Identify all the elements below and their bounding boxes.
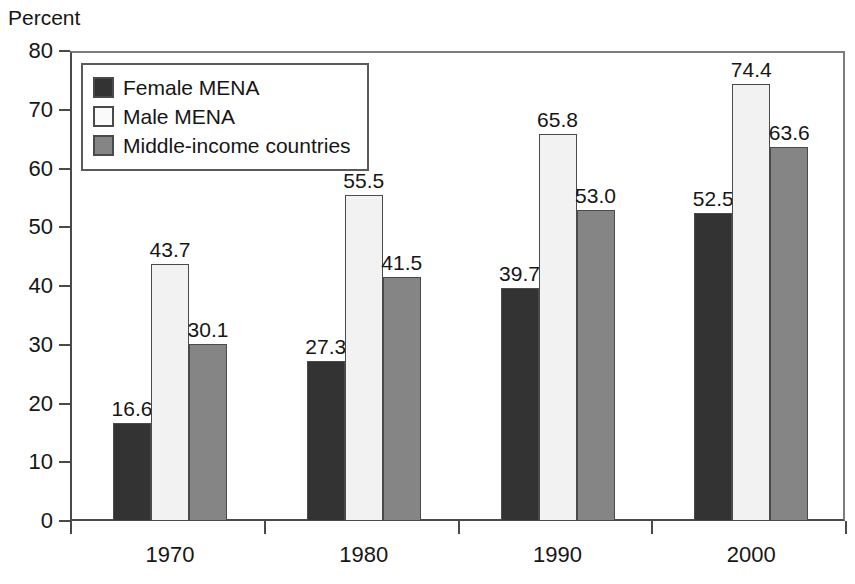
bar-1990-series-1 bbox=[539, 134, 577, 521]
bar-chart-figure: Percent 01020304050607080 19701980199020… bbox=[0, 0, 855, 584]
bar-1980-series-1 bbox=[345, 195, 383, 521]
legend-item-1[interactable]: Male MENA bbox=[93, 102, 357, 131]
legend-label: Female MENA bbox=[123, 76, 260, 100]
y-tick-mark bbox=[59, 461, 70, 463]
bar-1980-series-0 bbox=[307, 361, 345, 521]
bar-1970-series-1 bbox=[151, 264, 189, 521]
bar-value-label-1980-series-2: 41.5 bbox=[381, 250, 422, 275]
bar-value-label-1970-series-2: 30.1 bbox=[188, 317, 229, 342]
y-tick-label: 30 bbox=[29, 331, 53, 358]
x-axis-origin-tick-mark bbox=[70, 521, 72, 534]
bar-1990-series-0 bbox=[501, 288, 539, 521]
bar-value-label-1990-series-0: 39.7 bbox=[499, 261, 540, 286]
x-axis-tick-mark bbox=[458, 521, 460, 534]
y-tick-label: 70 bbox=[29, 96, 53, 123]
dark-gray-swatch bbox=[93, 77, 114, 98]
bar-1990-series-2 bbox=[577, 210, 615, 521]
y-tick-mark bbox=[59, 50, 70, 52]
bar-value-label-2000-series-2: 63.6 bbox=[769, 120, 810, 145]
x-axis-label-1990: 1990 bbox=[533, 541, 582, 569]
bar-1970-series-0 bbox=[113, 423, 151, 521]
medium-gray-swatch bbox=[93, 135, 114, 156]
bar-value-label-1990-series-2: 53.0 bbox=[575, 183, 616, 208]
y-tick-mark bbox=[59, 226, 70, 228]
y-tick-mark bbox=[59, 344, 70, 346]
bar-value-label-1990-series-1: 65.8 bbox=[537, 107, 578, 132]
legend-item-0[interactable]: Female MENA bbox=[93, 73, 357, 102]
y-tick-label: 0 bbox=[41, 507, 53, 534]
y-tick-label: 40 bbox=[29, 272, 53, 299]
bar-2000-series-2 bbox=[770, 147, 808, 521]
y-tick-mark bbox=[59, 403, 70, 405]
x-axis-label-1980: 1980 bbox=[339, 541, 388, 569]
x-axis-label-2000: 2000 bbox=[727, 541, 776, 569]
x-axis-tick-mark bbox=[264, 521, 266, 534]
y-axis-title: Percent bbox=[8, 5, 80, 31]
x-axis-tick-mark bbox=[651, 521, 653, 534]
bar-value-label-1970-series-1: 43.7 bbox=[150, 237, 191, 262]
legend-label: Middle-income countries bbox=[123, 134, 351, 158]
x-axis-label-1970: 1970 bbox=[146, 541, 195, 569]
y-tick-label: 10 bbox=[29, 448, 53, 475]
bar-value-label-2000-series-0: 52.5 bbox=[693, 186, 734, 211]
bar-2000-series-0 bbox=[694, 213, 732, 521]
legend-item-2[interactable]: Middle-income countries bbox=[93, 131, 357, 160]
y-tick-label: 80 bbox=[29, 37, 53, 64]
legend-label: Male MENA bbox=[123, 105, 235, 129]
y-tick-mark bbox=[59, 109, 70, 111]
bar-value-label-1980-series-1: 55.5 bbox=[343, 168, 384, 193]
y-tick-mark bbox=[59, 520, 70, 522]
chart-legend: Female MENAMale MENAMiddle-income countr… bbox=[81, 63, 369, 171]
bar-value-label-1980-series-0: 27.3 bbox=[305, 334, 346, 359]
white-swatch bbox=[93, 106, 114, 127]
bar-1980-series-2 bbox=[383, 277, 421, 521]
x-axis-tick-mark bbox=[845, 521, 847, 534]
y-tick-mark bbox=[59, 285, 70, 287]
y-tick-label: 20 bbox=[29, 390, 53, 417]
bar-2000-series-1 bbox=[732, 84, 770, 521]
y-tick-label: 60 bbox=[29, 155, 53, 182]
y-tick-mark bbox=[59, 168, 70, 170]
y-tick-label: 50 bbox=[29, 213, 53, 240]
bar-1970-series-2 bbox=[189, 344, 227, 521]
bar-value-label-1970-series-0: 16.6 bbox=[112, 396, 153, 421]
bar-value-label-2000-series-1: 74.4 bbox=[731, 57, 772, 82]
